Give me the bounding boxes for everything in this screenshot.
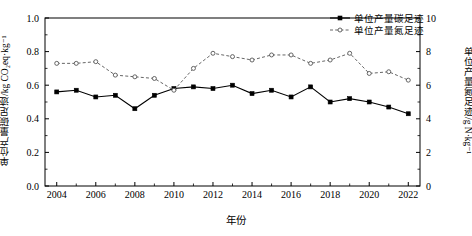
data-point-marker	[270, 53, 274, 57]
y-tick-label-left: 0.8	[27, 46, 40, 57]
x-tick-label: 2012	[203, 189, 223, 200]
data-point-marker	[231, 55, 235, 59]
y-tick-label-left: 0.4	[27, 113, 40, 124]
y-tick-label-right: 6	[426, 80, 431, 91]
y-tick-label-right: 4	[426, 113, 431, 124]
y-axis-label-right: 单位产量氮足迹/g N·kg⁻¹	[463, 16, 472, 186]
x-tick-label: 2016	[281, 189, 301, 200]
data-point-marker	[328, 58, 332, 62]
y-tick-label-left: 1.0	[27, 13, 40, 24]
x-tick-label: 2010	[164, 189, 184, 200]
data-point-marker	[211, 51, 215, 55]
plot-frame	[45, 18, 420, 186]
x-tick-label: 2008	[125, 189, 145, 200]
data-point-marker	[113, 73, 117, 77]
data-point-marker	[309, 61, 313, 65]
y-tick-label-right: 10	[426, 13, 436, 24]
data-point-marker	[172, 88, 176, 92]
x-tick-label: 2022	[398, 189, 418, 200]
data-point-marker	[289, 53, 293, 57]
y-tick-label-right: 0	[426, 181, 431, 192]
data-point-marker	[387, 105, 391, 109]
data-point-marker	[406, 112, 410, 116]
plot-svg: 0.00.20.40.60.81.0 0246810 2004200620082…	[0, 0, 472, 236]
x-axis-label: 年份	[0, 212, 472, 227]
x-tick-label: 2018	[320, 189, 340, 200]
data-point-marker	[328, 100, 332, 104]
x-tick-label: 2004	[47, 189, 67, 200]
data-point-marker	[211, 87, 215, 91]
data-point-marker	[387, 70, 391, 74]
legend-label-0: 单位产量碳足迹	[354, 13, 424, 24]
data-point-marker	[270, 88, 274, 92]
legend-marker-0	[338, 16, 342, 20]
data-point-marker	[55, 90, 59, 94]
x-tick-label: 2020	[359, 189, 379, 200]
y-tick-label-left: 0.2	[27, 147, 40, 158]
data-point-marker	[348, 97, 352, 101]
x-tick-label: 2014	[242, 189, 262, 200]
data-point-marker	[133, 75, 137, 79]
data-point-marker	[74, 61, 78, 65]
data-point-marker	[191, 66, 195, 70]
legend-label-1: 单位产量氮足迹	[354, 25, 424, 36]
data-point-marker	[289, 95, 293, 99]
y-tick-label-right: 8	[426, 46, 431, 57]
data-point-marker	[250, 92, 254, 96]
data-point-marker	[250, 58, 254, 62]
data-point-marker	[348, 51, 352, 55]
x-tick-label: 2006	[86, 189, 106, 200]
data-point-marker	[55, 61, 59, 65]
data-point-marker	[309, 85, 313, 89]
plot-area	[45, 18, 420, 186]
y-axis-label-left: 单位产量碳足迹/kg CO₂eq·kg⁻¹	[1, 16, 11, 186]
data-point-marker	[74, 88, 78, 92]
legend-marker-1	[338, 28, 342, 32]
chart-figure: 单位产量碳足迹/kg CO₂eq·kg⁻¹ 单位产量氮足迹/g N·kg⁻¹ 年…	[0, 0, 472, 236]
data-point-marker	[113, 93, 117, 97]
y-tick-label-left: 0.6	[27, 80, 40, 91]
data-point-marker	[94, 60, 98, 64]
data-point-marker	[367, 71, 371, 75]
y-tick-label-right: 2	[426, 147, 431, 158]
y-tick-label-left: 0.0	[27, 181, 40, 192]
data-point-marker	[231, 83, 235, 87]
data-point-marker	[133, 107, 137, 111]
data-point-marker	[152, 93, 156, 97]
data-point-marker	[367, 100, 371, 104]
data-point-marker	[94, 95, 98, 99]
data-point-marker	[406, 78, 410, 82]
data-point-marker	[152, 76, 156, 80]
data-point-marker	[191, 85, 195, 89]
